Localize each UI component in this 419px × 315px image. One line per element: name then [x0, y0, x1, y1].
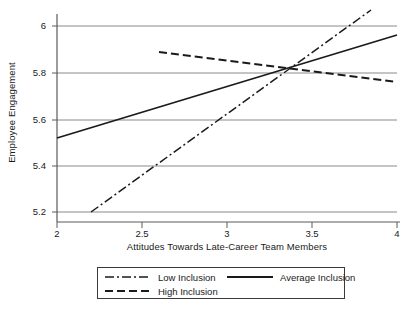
x-tick-label-4: 4	[379, 228, 415, 239]
chart-legend: Low Inclusion High Inclusion Average Inc…	[97, 267, 345, 299]
legend-item-low-inclusion: Low Inclusion	[104, 270, 216, 284]
y-tick-label-5.2: 5.2	[16, 206, 46, 217]
y-tick-label-6: 6	[16, 20, 46, 31]
chart-figure: Employee Engagement 6 5.8 5.6 5.4 5.2 2 …	[0, 0, 419, 315]
x-tick-label-2.5: 2.5	[124, 228, 160, 239]
x-tick-label-3.5: 3.5	[294, 228, 330, 239]
legend-swatch-dash-dot-icon	[104, 272, 152, 282]
legend-swatch-dashed-icon	[104, 286, 152, 296]
x-tick-label-2: 2	[39, 228, 75, 239]
series-line-high-inclusion	[159, 52, 397, 82]
gridlines	[57, 26, 397, 212]
y-tick-label-5.4: 5.4	[16, 160, 46, 171]
y-tick-label-5.8: 5.8	[16, 67, 46, 78]
legend-label-average-inclusion: Average Inclusion	[280, 272, 355, 283]
legend-item-average-inclusion: Average Inclusion	[226, 270, 355, 284]
x-axis-label-text: Attitudes Towards Late-Career Team Membe…	[57, 241, 397, 252]
legend-item-high-inclusion: High Inclusion	[104, 284, 218, 298]
axis-lines	[57, 14, 400, 222]
y-tick-label-5.6: 5.6	[16, 114, 46, 125]
legend-swatch-solid-icon	[226, 272, 274, 282]
series-line-low-inclusion	[91, 10, 371, 212]
series-line-average-inclusion	[57, 35, 397, 138]
data-series	[57, 10, 397, 212]
legend-label-low-inclusion: Low Inclusion	[158, 272, 216, 283]
x-tick-label-3: 3	[209, 228, 245, 239]
y-axis-ticks	[52, 26, 57, 212]
legend-label-high-inclusion: High Inclusion	[158, 286, 218, 297]
